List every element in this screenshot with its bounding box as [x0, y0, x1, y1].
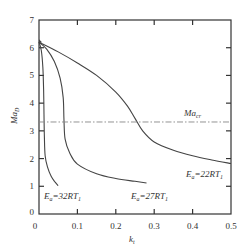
- x-tick-label: 0.2: [110, 221, 121, 231]
- y-tick-label: 2: [30, 154, 35, 164]
- plot-frame: [39, 20, 231, 214]
- curve-label-32rt: Ea=32RT1: [43, 191, 81, 202]
- y-tick-label: 6: [30, 43, 35, 53]
- curve-ea27rt1: [39, 42, 147, 183]
- data-curves: [39, 39, 231, 186]
- curve-ea22rt1: [39, 42, 231, 163]
- y-tick-label: 5: [30, 70, 35, 80]
- x-tick-label: 0.1: [72, 221, 83, 231]
- chart-canvas: 00.10.20.30.40.501234567 MaD kt Macr Ea=…: [0, 0, 250, 250]
- x-tick-label: 0.3: [149, 221, 161, 231]
- curve-label-22rt: Ea=22RT1: [185, 169, 223, 180]
- x-tick-label: 0: [33, 221, 38, 231]
- macr-label: Macr: [183, 108, 202, 119]
- x-tick-label: 0.4: [187, 221, 199, 231]
- axis-ticks: [39, 20, 231, 214]
- y-tick-label: 7: [30, 15, 35, 25]
- y-tick-label: 4: [30, 98, 35, 108]
- y-axis-label: MaD: [9, 107, 20, 125]
- y-tick-label: 1: [30, 181, 35, 191]
- origin-marker: [39, 39, 42, 43]
- y-tick-label: 0: [30, 207, 35, 217]
- x-axis-label: kt: [129, 234, 135, 245]
- y-tick-label: 3: [30, 126, 35, 136]
- curve-label-27rt: Ea=27RT1: [130, 191, 168, 202]
- x-tick-label: 0.5: [225, 221, 237, 231]
